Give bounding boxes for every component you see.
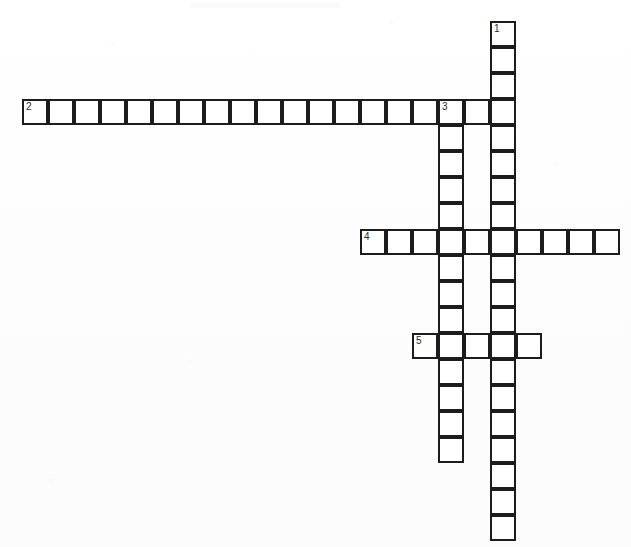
cell-number-3: 3 (442, 101, 448, 112)
crossword-cell[interactable] (490, 177, 516, 203)
crossword-cell[interactable] (178, 99, 204, 125)
crossword-cell[interactable] (438, 359, 464, 385)
crossword-cell[interactable]: 3 (438, 99, 464, 125)
cell-number-2: 2 (26, 101, 32, 112)
crossword-cell[interactable] (464, 333, 490, 359)
crossword-cell[interactable] (360, 99, 386, 125)
crossword-cell[interactable] (438, 281, 464, 307)
crossword-cell[interactable] (438, 255, 464, 281)
crossword-cell[interactable] (438, 411, 464, 437)
crossword-cell[interactable] (438, 177, 464, 203)
crossword-cell[interactable] (438, 151, 464, 177)
crossword-cell[interactable] (490, 255, 516, 281)
crossword-cell[interactable] (490, 489, 516, 515)
crossword-cell[interactable] (490, 281, 516, 307)
crossword-cell[interactable] (594, 229, 620, 255)
crossword-cell[interactable] (230, 99, 256, 125)
crossword-cell[interactable] (438, 203, 464, 229)
crossword-cell[interactable]: 2 (22, 99, 48, 125)
crossword-cell[interactable]: 1 (490, 21, 516, 47)
crossword-cell[interactable] (100, 99, 126, 125)
crossword-cell[interactable] (516, 229, 542, 255)
crossword-cell[interactable] (490, 333, 516, 359)
crossword-cell[interactable] (490, 99, 516, 125)
crossword-cell[interactable] (126, 99, 152, 125)
crossword-cell[interactable] (282, 99, 308, 125)
crossword-cell[interactable] (48, 99, 74, 125)
crossword-cell[interactable] (542, 229, 568, 255)
crossword-cell[interactable] (490, 411, 516, 437)
crossword-cell[interactable] (490, 359, 516, 385)
crossword-cell[interactable] (152, 99, 178, 125)
cell-number-5: 5 (416, 335, 422, 346)
crossword-cell[interactable] (490, 385, 516, 411)
crossword-cell[interactable] (438, 385, 464, 411)
crossword-cell[interactable] (74, 99, 100, 125)
crossword-cell[interactable] (490, 125, 516, 151)
crossword-cell[interactable] (490, 307, 516, 333)
crossword-cell[interactable] (308, 99, 334, 125)
crossword-cell[interactable] (438, 437, 464, 463)
crossword-cell[interactable] (490, 463, 516, 489)
crossword-cell[interactable] (386, 229, 412, 255)
crossword-cell[interactable] (438, 333, 464, 359)
crossword-cell[interactable] (438, 307, 464, 333)
crossword-cell[interactable] (490, 203, 516, 229)
crossword-cell[interactable] (490, 73, 516, 99)
crossword-cell[interactable] (490, 151, 516, 177)
crossword-cell[interactable] (438, 125, 464, 151)
crossword-grid: 12345 (0, 0, 631, 547)
crossword-cell[interactable] (464, 99, 490, 125)
crossword-cell[interactable] (490, 229, 516, 255)
crossword-cell[interactable] (412, 99, 438, 125)
crossword-cell[interactable] (490, 515, 516, 541)
cell-number-4: 4 (364, 231, 370, 242)
crossword-cell[interactable] (334, 99, 360, 125)
crossword-cell[interactable] (438, 229, 464, 255)
crossword-cell[interactable]: 4 (360, 229, 386, 255)
crossword-cell[interactable] (412, 229, 438, 255)
cell-number-1: 1 (494, 23, 500, 34)
crossword-cell[interactable] (568, 229, 594, 255)
crossword-cell[interactable] (490, 437, 516, 463)
crossword-cell[interactable] (386, 99, 412, 125)
crossword-puzzle-page: 12345 (0, 0, 631, 547)
crossword-cell[interactable] (516, 333, 542, 359)
crossword-cell[interactable]: 5 (412, 333, 438, 359)
crossword-cell[interactable] (490, 47, 516, 73)
crossword-cell[interactable] (464, 229, 490, 255)
crossword-cell[interactable] (256, 99, 282, 125)
crossword-cell[interactable] (204, 99, 230, 125)
